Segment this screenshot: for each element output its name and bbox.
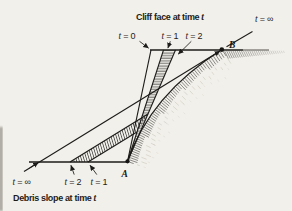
point-B-dot: [220, 47, 225, 52]
caption-debris-slope: Debris slope at time t: [13, 193, 97, 203]
point-A-dot: [125, 159, 129, 163]
label-bottom-t-infinity: t = ∞: [13, 177, 31, 187]
label-top-t0: t = 0: [119, 31, 136, 41]
label-bottom-t2: t = 2: [65, 177, 82, 187]
scan-edge-artifact: [0, 127, 3, 211]
figure-canvas: Cliff face at time t t = ∞ t = 0 t = 1 t…: [0, 0, 292, 211]
label-top-t1: t = 1: [162, 31, 179, 41]
label-point-B: B: [228, 40, 235, 50]
caption-cliff-face: Cliff face at time t: [136, 12, 204, 22]
cliff-debris-diagram: Cliff face at time t t = ∞ t = 0 t = 1 t…: [0, 0, 292, 211]
label-top-t2: t = 2: [186, 31, 203, 41]
label-top-t-infinity: t = ∞: [255, 14, 273, 24]
label-bottom-t1: t = 1: [91, 177, 108, 187]
label-point-A: A: [121, 169, 128, 179]
